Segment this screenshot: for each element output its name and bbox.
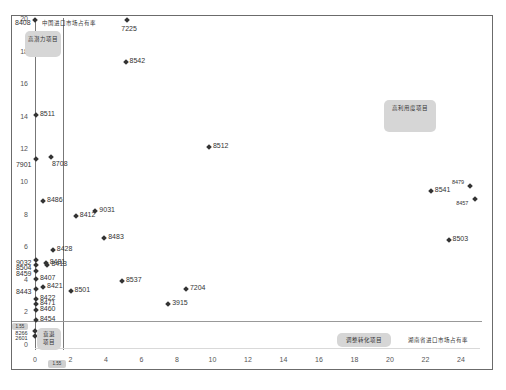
decline-line2: 项目 bbox=[37, 338, 61, 346]
x-tick-label: 16 bbox=[311, 356, 327, 363]
data-point bbox=[119, 278, 125, 284]
point-label: 3915 bbox=[172, 299, 188, 306]
data-point bbox=[101, 236, 107, 242]
data-point bbox=[48, 154, 54, 160]
data-point bbox=[124, 17, 130, 23]
ref-tag-y: 1.55 bbox=[12, 323, 28, 330]
data-point bbox=[50, 247, 56, 253]
data-point bbox=[33, 317, 39, 323]
data-point bbox=[33, 301, 39, 307]
y-tick-label: 8 bbox=[14, 211, 28, 218]
point-label: 7225 bbox=[121, 25, 137, 32]
point-label: 8708 bbox=[52, 160, 68, 167]
data-point bbox=[33, 276, 39, 282]
ref-tag-x: 1.55 bbox=[48, 360, 66, 368]
quadrant-label-adjust: 调整转化项目 bbox=[337, 333, 391, 347]
data-point bbox=[33, 307, 39, 313]
point-label: 8460 bbox=[40, 305, 56, 312]
point-label: 8408 bbox=[15, 19, 31, 26]
point-label: 8428 bbox=[57, 245, 73, 252]
point-label: 7204 bbox=[190, 284, 206, 291]
data-point bbox=[467, 183, 473, 189]
point-label: 8511 bbox=[40, 110, 55, 117]
y-tick-label: 2 bbox=[14, 308, 28, 315]
quadrant-label-high-utilization: 高利用度项目 bbox=[384, 100, 436, 132]
data-point bbox=[183, 286, 189, 292]
y-tick-label: 0 bbox=[14, 341, 28, 348]
y-tick-label: 6 bbox=[14, 243, 28, 250]
data-point bbox=[40, 198, 46, 204]
data-point bbox=[40, 284, 46, 290]
point-label: 8542 bbox=[130, 57, 146, 64]
x-tick-label: 18 bbox=[347, 356, 363, 363]
data-point bbox=[123, 60, 129, 66]
x-tick-label: 0 bbox=[27, 356, 43, 363]
x-axis-title: 湖南省进口市场占有率 bbox=[408, 336, 468, 344]
x-tick-label: 4 bbox=[98, 356, 114, 363]
point-label: 8459 bbox=[16, 270, 32, 277]
data-point bbox=[165, 301, 171, 307]
point-label: 8486 bbox=[47, 196, 63, 203]
point-label: 8541 bbox=[435, 186, 451, 193]
point-label: 8479 bbox=[452, 179, 464, 185]
point-label: 8483 bbox=[108, 233, 124, 240]
quadrant-label-high-potential: 高潜力项目 bbox=[25, 31, 61, 57]
data-point bbox=[206, 144, 212, 150]
point-label: 9031 bbox=[99, 206, 115, 213]
point-label: 8413 bbox=[51, 260, 67, 267]
y-tick-label: 10 bbox=[14, 178, 28, 185]
data-point bbox=[33, 112, 39, 118]
point-label: 8454 bbox=[40, 315, 56, 322]
reference-line-horizontal bbox=[12, 321, 482, 322]
x-tick-label: 20 bbox=[382, 356, 398, 363]
x-axis-line bbox=[35, 348, 480, 349]
x-tick-label: 10 bbox=[205, 356, 221, 363]
x-tick-label: 12 bbox=[240, 356, 256, 363]
x-tick-label: 24 bbox=[453, 356, 469, 363]
y-axis-title: 中国进口市场占有率 bbox=[42, 19, 96, 27]
data-point bbox=[33, 286, 39, 292]
point-label: 8537 bbox=[126, 276, 142, 283]
x-tick-label: 8 bbox=[169, 356, 185, 363]
x-tick-label: 14 bbox=[276, 356, 292, 363]
point-label: 8512 bbox=[213, 142, 229, 149]
point-label: 7901 bbox=[16, 161, 32, 168]
point-label: 8407 bbox=[40, 274, 56, 281]
point-label: 8421 bbox=[47, 282, 63, 289]
y-tick-label: 16 bbox=[14, 80, 28, 87]
y-tick-label: 12 bbox=[14, 145, 28, 152]
reference-line-vertical bbox=[63, 18, 64, 350]
point-label: 2601 bbox=[15, 335, 27, 341]
quadrant-label-decline: 衰退 项目 bbox=[37, 328, 61, 350]
point-label: 8503 bbox=[453, 235, 469, 242]
point-label: 8457 bbox=[456, 200, 468, 206]
data-point bbox=[33, 268, 39, 274]
point-label: 8443 bbox=[16, 288, 32, 295]
y-tick-label: 14 bbox=[14, 113, 28, 120]
data-point bbox=[446, 237, 452, 243]
data-point bbox=[73, 213, 79, 219]
scatter-plot: 0246810121416182002468101214161820222484… bbox=[0, 0, 506, 390]
decline-line1: 衰退 bbox=[37, 330, 61, 338]
data-point bbox=[93, 208, 99, 214]
data-point bbox=[472, 196, 478, 202]
point-label: 8501 bbox=[75, 286, 91, 293]
data-point bbox=[32, 17, 38, 23]
data-point bbox=[68, 288, 74, 294]
data-point bbox=[33, 156, 39, 162]
x-tick-label: 6 bbox=[134, 356, 150, 363]
x-tick-label: 22 bbox=[418, 356, 434, 363]
data-point bbox=[428, 188, 434, 194]
